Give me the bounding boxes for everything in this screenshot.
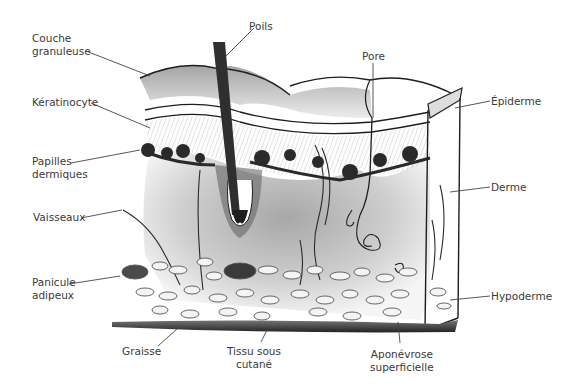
- label-pore: Pore: [362, 50, 385, 63]
- label-couche-granuleuse: Couche granuleuse: [32, 32, 91, 57]
- label-keratinocyte: Kératinocyte: [32, 96, 98, 109]
- label-derme: Derme: [491, 181, 526, 194]
- label-epiderme: Épiderme: [491, 95, 541, 108]
- label-papilles-dermiques: Papilles dermiques: [32, 155, 88, 180]
- label-hypoderme: Hypoderme: [491, 290, 552, 303]
- dermis-layer: [143, 150, 430, 320]
- label-vaisseaux: Vaisseaux: [33, 211, 85, 224]
- label-poils: Poils: [249, 20, 273, 33]
- label-aponevrose-superficielle: Aponévrose superficielle: [370, 348, 434, 373]
- superficial-fascia-base: [112, 320, 458, 332]
- skin-cross-section-illustration: [0, 0, 573, 390]
- label-panicule-adipeux: Panicule adipeux: [32, 276, 76, 301]
- label-tissu-sous-cutane: Tissu sous cutané: [227, 345, 281, 370]
- label-graisse: Graisse: [122, 345, 161, 358]
